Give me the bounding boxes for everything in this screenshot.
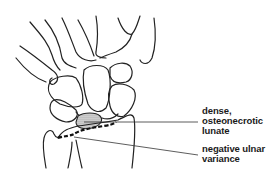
annotation-lunate: dense, osteonecrotic lunate	[202, 106, 263, 136]
leader-line-ulnar-variance	[74, 137, 198, 155]
metacarpals	[16, 16, 155, 84]
annotation-ulnar-variance: negative ulnar variance	[202, 144, 265, 164]
hamate	[110, 63, 132, 83]
scaphoid	[50, 100, 77, 122]
capitate	[83, 66, 110, 112]
annotation-ulnar-line-2: variance	[202, 154, 265, 164]
annotation-lunate-line-3: lunate	[202, 126, 263, 136]
lunate-bone	[76, 113, 102, 129]
triquetrum	[109, 84, 136, 117]
ulna	[43, 131, 60, 168]
